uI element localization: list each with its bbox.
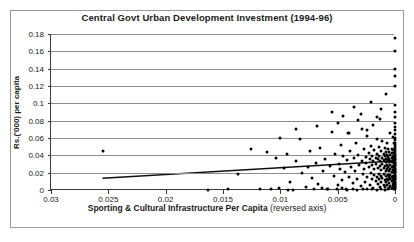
- gridline: [51, 86, 394, 87]
- x-tick-mark: [280, 190, 281, 194]
- y-tick-label: 0.14: [0, 64, 44, 73]
- data-point: [374, 162, 377, 165]
- y-tick-label: 0.06: [0, 134, 44, 143]
- data-point: [387, 188, 390, 191]
- data-point: [207, 188, 210, 191]
- data-point: [394, 110, 397, 113]
- data-point: [352, 157, 355, 160]
- data-point: [321, 169, 324, 172]
- data-point: [366, 175, 369, 178]
- data-point: [351, 181, 354, 184]
- data-point: [301, 172, 304, 175]
- y-tick-label: 0.02: [0, 168, 44, 177]
- data-point: [336, 184, 339, 187]
- data-point: [327, 188, 330, 191]
- data-point: [334, 152, 337, 155]
- y-tick-mark: [48, 155, 51, 156]
- data-point: [375, 188, 378, 191]
- data-point: [348, 132, 351, 135]
- data-point: [304, 185, 307, 188]
- y-tick-label: 0.04: [0, 151, 44, 160]
- data-point: [298, 138, 301, 141]
- data-point: [394, 129, 397, 132]
- y-tick-label: 0.12: [0, 82, 44, 91]
- data-point: [306, 166, 309, 169]
- y-tick-label: 0.1: [0, 99, 44, 108]
- data-point: [249, 148, 252, 151]
- data-point: [333, 174, 336, 177]
- data-point: [320, 187, 323, 190]
- data-point: [340, 143, 343, 146]
- data-point: [366, 129, 369, 132]
- data-point: [358, 163, 361, 166]
- data-point: [364, 181, 367, 184]
- y-tick-mark: [48, 103, 51, 104]
- y-tick-mark: [48, 138, 51, 139]
- data-point: [369, 144, 372, 147]
- data-point: [278, 187, 281, 190]
- data-point: [330, 110, 333, 113]
- data-point: [372, 123, 375, 126]
- data-point: [361, 173, 364, 176]
- data-point: [319, 146, 322, 149]
- data-point: [375, 138, 378, 141]
- data-point: [352, 105, 355, 108]
- data-point: [317, 182, 320, 185]
- data-point: [345, 188, 348, 191]
- data-point: [287, 188, 290, 191]
- data-point: [338, 168, 341, 171]
- data-point: [357, 153, 360, 156]
- data-point: [351, 188, 354, 191]
- data-point: [337, 162, 340, 165]
- data-point: [360, 127, 363, 130]
- data-point: [356, 178, 359, 181]
- data-point: [286, 153, 289, 156]
- data-point: [377, 146, 380, 149]
- gridline: [51, 51, 394, 52]
- plot-area: 00.020.040.060.080.10.120.140.160.180.03…: [50, 34, 394, 190]
- data-point: [375, 115, 378, 118]
- data-point: [341, 187, 344, 190]
- data-point: [394, 85, 397, 88]
- data-point: [274, 156, 277, 159]
- data-point: [373, 148, 376, 151]
- data-point: [394, 188, 397, 191]
- x-tick-mark: [338, 190, 339, 194]
- data-point: [350, 165, 353, 168]
- data-point: [394, 67, 397, 70]
- data-point: [343, 171, 346, 174]
- data-point: [366, 135, 369, 138]
- data-point: [356, 188, 359, 191]
- data-point: [355, 141, 358, 144]
- data-point: [369, 101, 372, 104]
- data-point: [385, 141, 388, 144]
- data-point: [330, 130, 333, 133]
- y-tick-mark: [48, 173, 51, 174]
- gridline: [51, 103, 394, 104]
- data-point: [226, 188, 229, 191]
- data-point: [236, 172, 239, 175]
- gridline: [51, 138, 394, 139]
- data-point: [371, 177, 374, 180]
- data-point: [361, 187, 364, 190]
- data-point: [380, 108, 383, 111]
- data-point: [359, 112, 362, 115]
- y-tick-label: 0: [0, 186, 44, 195]
- data-point: [353, 170, 356, 173]
- data-point: [389, 131, 392, 134]
- data-point: [101, 150, 104, 153]
- data-point: [279, 137, 282, 140]
- data-point: [379, 118, 382, 121]
- data-point: [258, 187, 261, 190]
- data-point: [335, 188, 338, 191]
- data-point: [342, 114, 345, 117]
- x-tick-mark: [108, 190, 109, 194]
- y-tick-label: 0.18: [0, 30, 44, 39]
- data-point: [328, 164, 331, 167]
- data-point: [394, 132, 397, 135]
- data-point: [309, 150, 312, 153]
- chart-figure: Central Govt Urban Development Investmen…: [0, 0, 414, 242]
- x-axis-title-note: (reversed axis): [270, 203, 326, 213]
- data-point: [342, 155, 345, 158]
- x-tick-mark: [166, 190, 167, 194]
